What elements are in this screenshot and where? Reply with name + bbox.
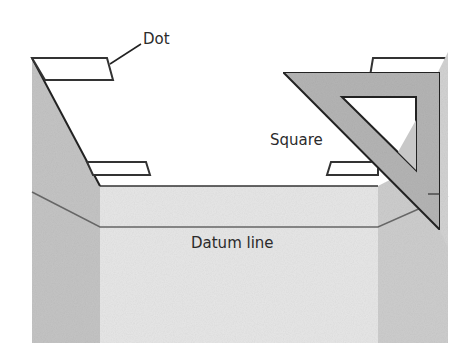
dot-leader-line (110, 44, 141, 64)
peg-lower-left (87, 162, 150, 175)
setting-out-diagram: Dot Square Datum line (0, 0, 470, 361)
square-label: Square (270, 131, 323, 149)
dot-peg-top-left (32, 58, 113, 80)
dot-label: Dot (143, 30, 170, 48)
left-wall (32, 58, 100, 343)
datum-line-label: Datum line (191, 234, 274, 252)
floor (100, 186, 378, 343)
peg-lower-right (327, 162, 378, 175)
